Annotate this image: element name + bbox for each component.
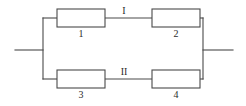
circuit-diagram: 1 2 3 4 I II (0, 0, 246, 106)
resistor-1-label: 1 (79, 28, 84, 39)
resistor-1-body (57, 9, 105, 27)
resistor-2-body (152, 9, 200, 27)
branch-label-ii: II (121, 66, 128, 77)
resistor-4-label: 4 (174, 89, 179, 100)
resistor-2-label: 2 (174, 28, 179, 39)
branch-label-i: I (122, 5, 125, 16)
resistor-4-body (152, 70, 200, 88)
resistor-3-label: 3 (79, 89, 84, 100)
circuit-canvas: 1 2 3 4 I II (0, 0, 246, 106)
resistor-3-body (57, 70, 105, 88)
